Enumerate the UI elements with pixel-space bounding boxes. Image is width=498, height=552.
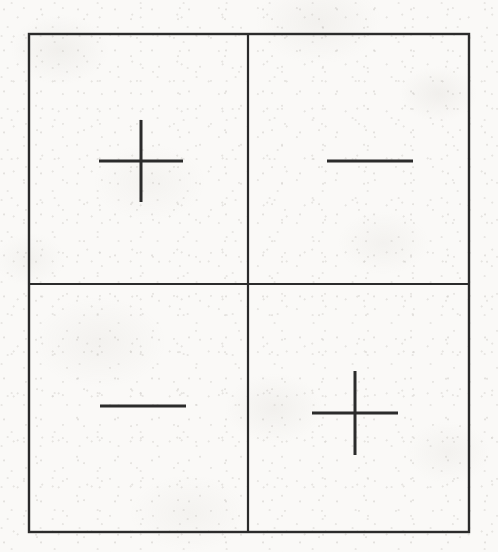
quadrant-diagram [0, 0, 498, 552]
quadrant-bottom-right-symbol [312, 371, 398, 455]
figure-canvas [0, 0, 498, 552]
quadrant-top-left-symbol [99, 120, 183, 202]
